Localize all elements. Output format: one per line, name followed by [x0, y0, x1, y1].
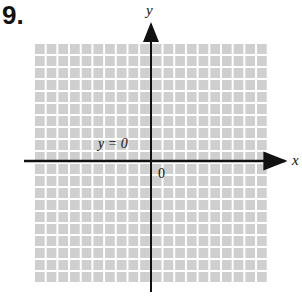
axes — [0, 0, 302, 305]
x-axis-label: x — [292, 152, 299, 169]
y-axis-label: y — [146, 2, 153, 19]
line-label: y = 0 — [98, 136, 128, 152]
origin-label: 0 — [158, 166, 165, 182]
